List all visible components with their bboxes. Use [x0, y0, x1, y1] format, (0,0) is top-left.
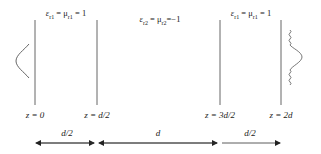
dimension-label-2: d — [156, 129, 161, 138]
dimension-label-3: d/2 — [244, 129, 256, 138]
diagram-canvas: εr1 = μr1 = 1 εr2 = μr2=−1 εr1 = μr1 = 1… — [0, 0, 321, 154]
boundary-label-z-2d: z = 2d — [269, 111, 292, 120]
region-2-label: εr2 = μr2=−1 — [140, 15, 181, 26]
boundary-label-z0: z = 0 — [26, 111, 45, 120]
region-1-label: εr1 = μr1 = 1 — [46, 9, 86, 20]
boundary-label-z-d2: z = d/2 — [84, 111, 110, 120]
dimension-label-1: d/2 — [61, 129, 73, 138]
boundary-label-z-3d2: z = 3d/2 — [205, 111, 235, 120]
incident-pulse-icon — [16, 44, 29, 78]
output-pulse-icon — [289, 30, 302, 85]
region-3-label: εr1 = μr1 = 1 — [231, 9, 271, 20]
